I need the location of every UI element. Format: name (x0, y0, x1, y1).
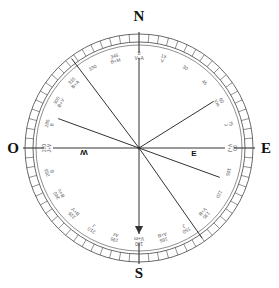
ring-tick (192, 240, 196, 247)
ring-tick (46, 209, 53, 214)
degree-label: 60Vm (213, 96, 225, 107)
degree-label-text: 105 (225, 167, 232, 176)
ring-tick (231, 91, 238, 95)
degree-label: 90V+J (227, 144, 237, 153)
ring-tick (52, 75, 58, 80)
ring-tick (119, 36, 120, 44)
ring-tick (32, 109, 40, 112)
ring-tick (82, 240, 86, 247)
ring-tick (220, 216, 226, 221)
ring-tick (166, 250, 168, 258)
ring-tick (100, 41, 103, 49)
ring-tick (27, 128, 35, 129)
ring-tick (231, 201, 238, 205)
degree-label-text: J (91, 223, 96, 229)
degree-label: 165A+B (157, 231, 168, 243)
ray-label: E (191, 149, 197, 158)
ray-line (139, 101, 214, 148)
degree-label: 300B+V (52, 95, 66, 109)
ring-tick (214, 67, 220, 73)
degree-label: 120 (215, 190, 223, 200)
ring-tick (235, 193, 242, 196)
ring-tick (66, 229, 71, 235)
degree-label: 45 (201, 79, 209, 87)
ring-tick (245, 157, 253, 158)
ray-line (72, 59, 139, 148)
degree-label: 330 (88, 64, 98, 72)
ring-tick (192, 49, 196, 56)
ray-line (139, 148, 202, 238)
degree-label-text: J+V (47, 143, 52, 152)
ring-tick (40, 91, 47, 95)
ring-tick (40, 201, 47, 205)
ring-tick (74, 55, 79, 62)
ring-tick (119, 252, 120, 260)
ring-tick (148, 254, 149, 262)
ring-tick (175, 41, 178, 49)
ring-tick (25, 138, 33, 139)
ring-tick (207, 229, 212, 235)
degree-label-text: J (223, 123, 229, 127)
ring-tick (27, 166, 35, 167)
ring-tick (100, 248, 103, 256)
degree-label-text: J (181, 223, 186, 229)
ring-tick (241, 118, 249, 120)
ring-tick (29, 118, 37, 120)
cardinal-east: E (261, 140, 271, 157)
degree-label: 210J (87, 222, 99, 235)
cardinal-west: O (7, 140, 19, 157)
arrow-head-icon (135, 226, 143, 234)
ring-tick (36, 100, 43, 103)
degree-label: 15V (159, 53, 167, 64)
center-point (138, 147, 141, 150)
ring-tick (166, 38, 168, 46)
ring-tick (82, 49, 86, 56)
degree-label: 150J (179, 222, 191, 235)
ring-tick (129, 254, 130, 262)
ray-line (58, 119, 139, 148)
ring-tick (25, 157, 33, 158)
ring-tick (245, 138, 253, 139)
ring-tick (157, 252, 158, 260)
ring-tick (29, 175, 37, 177)
ray-line (139, 148, 220, 177)
ring-tick (239, 184, 247, 187)
degree-label-text: V+J (227, 144, 232, 153)
ring-tick (58, 67, 64, 73)
ring-tick (184, 244, 187, 251)
ring-tick (66, 61, 71, 67)
ring-tick (226, 209, 233, 214)
cardinal-north: N (134, 8, 145, 25)
degree-label: 30 (182, 64, 189, 71)
degree-label: 75J (223, 120, 234, 128)
ring-tick (241, 175, 249, 177)
ring-tick (91, 45, 94, 52)
degree-label: 225B+V (66, 206, 80, 220)
degree-label: 105 (225, 167, 232, 176)
ring-tick (129, 34, 130, 42)
ring-tick (52, 216, 58, 221)
degree-label-text: 120 (215, 190, 223, 200)
degree-label: 270J+V (42, 143, 52, 152)
ring-tick (220, 75, 226, 80)
degree-label-text: 330 (88, 64, 98, 72)
degree-label: 285B (44, 119, 56, 130)
cardinal-south: S (135, 265, 143, 282)
degree-label-text: B (49, 169, 55, 173)
ring-tick (214, 223, 220, 229)
compass-rose: 0V+A15V304560Vm75J90V+J105120135V+B150J1… (0, 0, 279, 288)
ring-tick (32, 184, 40, 187)
ring-tick (243, 166, 251, 167)
degree-label-text: 30 (182, 64, 189, 71)
ring-tick (91, 244, 94, 251)
ring-tick (157, 36, 158, 44)
ring-tick (175, 248, 178, 256)
degree-label: 315B+A (67, 75, 81, 89)
ring-tick (226, 83, 233, 88)
degree-label: 195Az (110, 231, 121, 243)
ring-tick (58, 223, 64, 229)
ring-tick (46, 83, 53, 88)
degree-label: 180V+m (134, 236, 144, 246)
ring-tick (184, 45, 187, 52)
degree-label-text: V+m (134, 236, 144, 241)
